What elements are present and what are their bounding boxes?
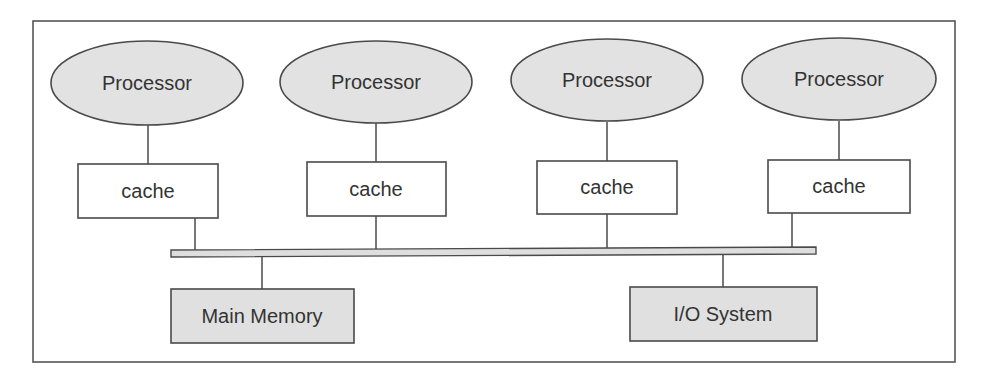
cache-label: cache <box>580 176 633 198</box>
processor-node-1: Processor <box>51 41 243 125</box>
main-memory-node: Main Memory <box>171 289 354 343</box>
processor-node-4: Processor <box>742 38 936 120</box>
io-system-node: I/O System <box>630 287 817 341</box>
main-memory-label: Main Memory <box>201 305 322 327</box>
cache-node-2: cache <box>307 162 446 216</box>
processor-label: Processor <box>102 72 192 94</box>
cache-label: cache <box>812 175 865 197</box>
processor-label: Processor <box>794 68 884 90</box>
io-system-label: I/O System <box>674 303 773 325</box>
cache-label: cache <box>349 178 402 200</box>
cache-label: cache <box>121 180 174 202</box>
processor-node-2: Processor <box>280 41 472 123</box>
multiprocessor-diagram: Processor Processor Processor Processor … <box>0 0 985 376</box>
processor-label: Processor <box>331 71 421 93</box>
processor-label: Processor <box>562 69 652 91</box>
cache-node-1: cache <box>78 164 218 218</box>
cache-node-4: cache <box>768 160 910 213</box>
processor-node-3: Processor <box>511 39 703 121</box>
cache-node-3: cache <box>537 161 677 214</box>
system-bus <box>171 247 816 257</box>
